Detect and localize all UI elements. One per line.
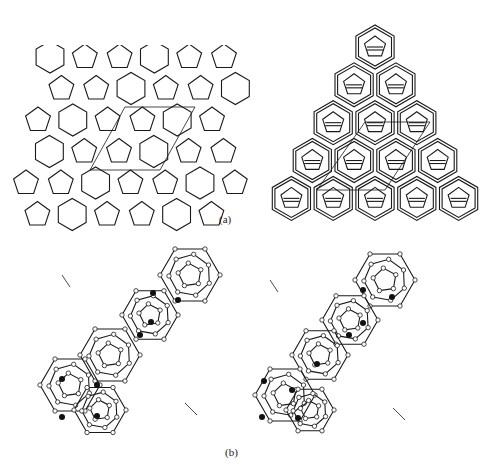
framework-atom	[362, 342, 366, 346]
framework-atom	[162, 289, 166, 293]
hexagon-face	[59, 104, 87, 136]
framework-atom	[194, 293, 198, 297]
framework-atom	[146, 302, 150, 306]
framework-atom	[323, 372, 327, 376]
pentagon-face	[200, 107, 225, 131]
hexagon-face	[58, 199, 86, 231]
unit-cell-edge	[393, 408, 405, 420]
framework-atom	[401, 268, 405, 272]
framework-atom	[335, 303, 339, 307]
framework-atom	[268, 419, 272, 423]
framework-atom	[298, 354, 302, 358]
framework-atom	[76, 391, 80, 395]
framework-atom	[192, 252, 196, 256]
unit-cell-edge	[185, 403, 197, 415]
framework-atom	[290, 353, 294, 357]
framework-atom	[56, 381, 60, 385]
framework-atom	[323, 400, 327, 404]
framework-atom	[167, 274, 171, 278]
framework-atom	[281, 381, 285, 385]
guest-atom	[346, 332, 352, 338]
framework-atom	[123, 327, 127, 331]
hexagon-face	[222, 73, 250, 105]
pentagon-face	[118, 170, 143, 194]
framework-atom	[262, 394, 266, 398]
pentagon-face	[153, 76, 178, 100]
framework-atom	[356, 326, 360, 330]
framework-atom	[182, 283, 186, 287]
label-b: (b)	[225, 446, 238, 458]
pentagon-face	[177, 45, 202, 68]
framework-atom	[186, 261, 190, 265]
framework-atom	[297, 395, 301, 399]
framework-atom	[306, 398, 310, 402]
framework-atom	[114, 399, 118, 403]
framework-atom	[72, 362, 76, 366]
pentagon-face	[48, 170, 73, 194]
guest-atom	[295, 415, 301, 421]
framework-atom	[381, 266, 385, 270]
framework-atom	[199, 268, 203, 272]
framework-atom	[413, 278, 417, 282]
framework-atom	[162, 337, 166, 341]
framework-atom	[303, 416, 307, 420]
framework-atom	[301, 383, 305, 387]
framework-atom	[296, 387, 300, 391]
framework-atom	[268, 367, 272, 371]
framework-atom	[316, 342, 320, 346]
hexagon-face	[82, 167, 110, 199]
framework-atom	[218, 273, 222, 277]
pentagon-face	[25, 202, 50, 226]
framework-atom	[269, 377, 273, 381]
cage-pentagon-face	[344, 150, 365, 170]
framework-atom	[111, 385, 115, 389]
hexagon-face	[140, 136, 168, 168]
hexagon-face	[36, 45, 64, 73]
framework-atom	[94, 337, 98, 341]
pentagon-face	[107, 45, 132, 68]
guest-atom	[94, 382, 100, 388]
framework-atom	[38, 383, 42, 387]
framework-atom	[135, 298, 139, 302]
framework-atom	[277, 403, 281, 407]
framework-atom	[80, 409, 84, 413]
cage-pentagon-face	[365, 36, 386, 56]
framework-atom	[143, 323, 147, 327]
framework-atom	[207, 281, 211, 285]
framework-atom	[316, 404, 320, 408]
framework-atom	[376, 318, 380, 322]
pentagon-face	[176, 139, 201, 163]
framework-atom	[116, 361, 120, 365]
pentagon-face	[95, 202, 120, 226]
framework-atom	[320, 387, 324, 391]
framework-atom	[298, 406, 302, 410]
framework-atom	[158, 308, 162, 312]
framework-atom	[106, 341, 110, 345]
panel-b-right-stereo	[250, 245, 450, 445]
framework-atom	[287, 372, 291, 376]
framework-atom	[305, 338, 309, 342]
framework-atom	[335, 343, 339, 347]
framework-atom	[120, 313, 124, 317]
guest-atom	[360, 320, 366, 326]
guest-atom	[261, 378, 267, 384]
framework-atom	[336, 360, 340, 364]
framework-atom	[311, 391, 315, 395]
framework-atom	[358, 313, 362, 317]
framework-atom	[72, 408, 76, 412]
framework-atom	[362, 294, 366, 298]
framework-atom	[114, 373, 118, 377]
pentagon-face	[211, 139, 236, 163]
framework-atom	[326, 361, 330, 365]
framework-atom	[53, 409, 57, 413]
framework-atom	[398, 304, 402, 308]
framework-atom	[83, 357, 87, 361]
framework-atom	[391, 286, 395, 290]
cage-pentagon-face	[448, 187, 469, 207]
framework-atom	[271, 391, 275, 395]
framework-atom	[86, 373, 90, 377]
framework-atom	[86, 394, 90, 398]
framework-atom	[105, 415, 109, 419]
pentagon-face	[95, 107, 120, 131]
framework-atom	[321, 334, 325, 338]
